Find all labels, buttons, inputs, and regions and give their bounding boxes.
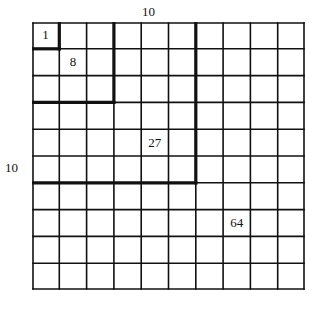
square-label-64: 64 [230,216,243,229]
square-label-1: 1 [42,28,49,41]
square-label-27: 27 [148,136,161,149]
square-grid: 1 8 27 64 [32,22,305,290]
side-dimension-label: 10 [5,161,18,174]
square-label-8: 8 [70,55,77,68]
top-dimension-label: 10 [142,5,155,18]
